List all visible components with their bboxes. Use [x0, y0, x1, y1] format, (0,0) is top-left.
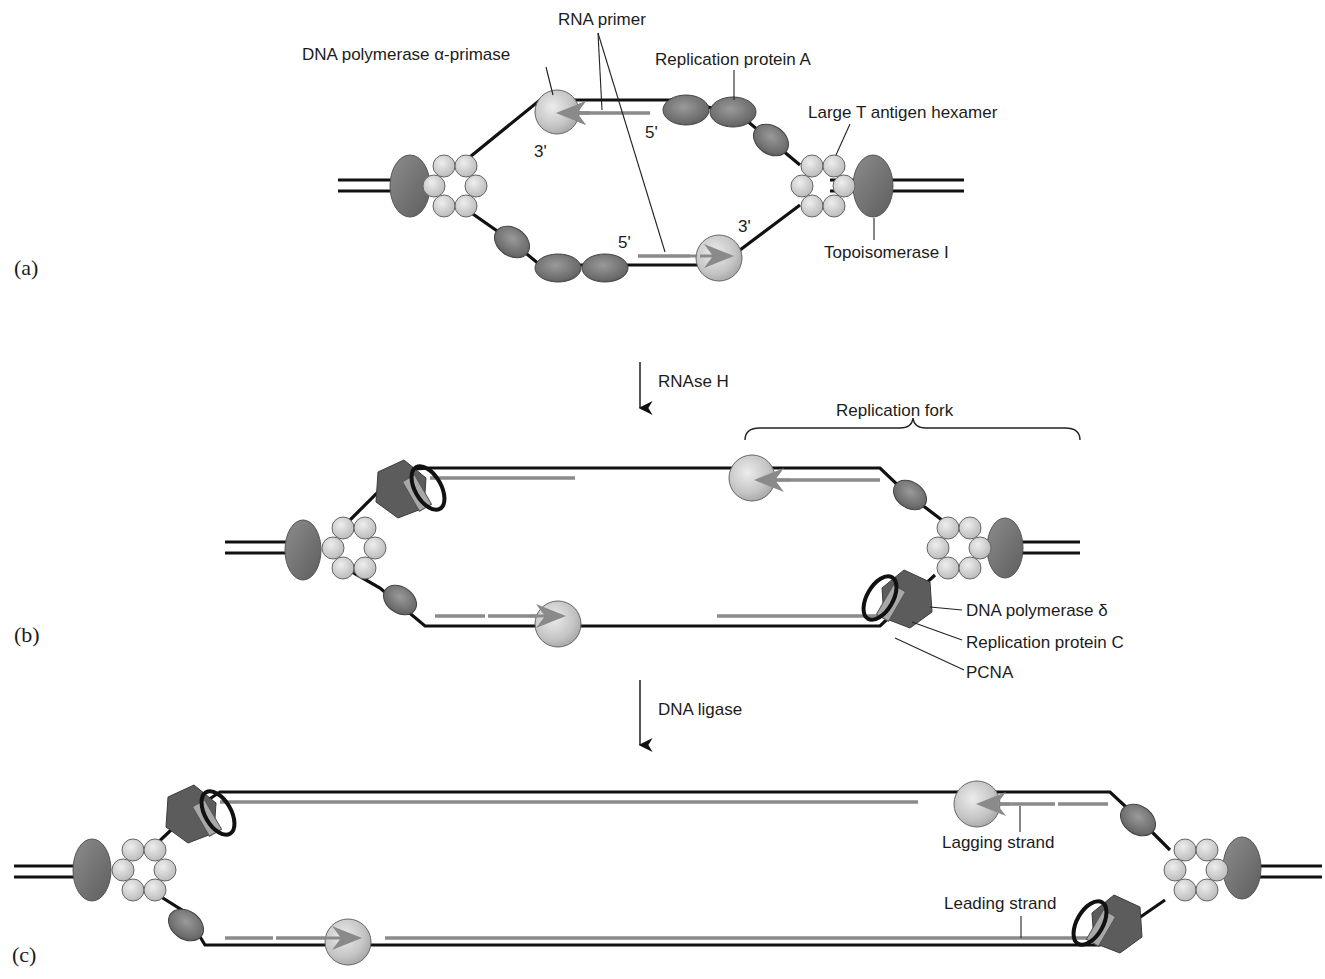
topoisomerase-b-left [285, 520, 321, 580]
rpa-top-2 [710, 97, 756, 127]
panel-label-b: (b) [14, 622, 40, 647]
pol-delta-complex-c-left [166, 785, 241, 843]
label-5prime-bottom: 5' [618, 233, 631, 252]
step-label-rnase-h: RNAse H [658, 372, 729, 391]
rpa-bottom-1 [488, 220, 535, 265]
label-t-antigen: Large T antigen hexamer [808, 103, 998, 122]
label-leading-strand: Leading strand [944, 894, 1056, 913]
label-rna-primer: RNA primer [558, 10, 646, 29]
panel-label-c: (c) [12, 942, 36, 967]
pol-alpha-c-bottom [325, 919, 371, 965]
t-antigen-hexamer-left [423, 155, 487, 217]
label-5prime-top: 5' [645, 123, 658, 142]
pol-alpha-primase-bottom [696, 235, 742, 281]
pol-delta-complex-b-right [857, 570, 932, 628]
panel-a: (a) RNA primer [14, 10, 998, 282]
step-label-dna-ligase: DNA ligase [658, 700, 742, 719]
rpa-bottom-2 [535, 254, 581, 282]
label-3prime-top: 3' [534, 142, 547, 161]
panel-c: (c) Lagging stra [12, 781, 1322, 967]
label-rfc: Replication protein C [966, 633, 1124, 652]
dna-replication-diagram: (a) RNA primer [0, 0, 1325, 979]
t-antigen-c-left [112, 839, 176, 901]
label-pcna: PCNA [966, 663, 1014, 682]
pol-delta-complex-c-right [1067, 895, 1142, 953]
t-antigen-hexamer-right [791, 155, 855, 217]
rpa-b-bottom [378, 579, 422, 621]
pol-alpha-b-bottom [535, 601, 581, 647]
label-topo: Topoisomerase I [824, 243, 949, 262]
replication-fork-brace [745, 418, 1080, 440]
rpa-top-1 [663, 95, 709, 125]
topoisomerase-right [853, 155, 893, 217]
step-rnase-h: RNAse H [640, 362, 729, 408]
t-antigen-c-right [1164, 839, 1228, 901]
leader-pol-delta [930, 607, 962, 610]
rpa-bottom-3 [582, 254, 628, 282]
label-3prime-bottom: 3' [738, 217, 751, 236]
label-lagging-strand: Lagging strand [942, 833, 1054, 852]
panel-label-a: (a) [14, 255, 38, 280]
topoisomerase-c-right [1223, 837, 1261, 899]
label-pol-delta: DNA polymerase δ [966, 601, 1108, 620]
topoisomerase-c-left [73, 839, 111, 901]
pol-alpha-b-top [729, 455, 775, 501]
leader-rfc [912, 622, 962, 640]
label-rpa: Replication protein A [655, 50, 812, 69]
t-antigen-b-right [927, 517, 991, 579]
leader-pcna [895, 638, 964, 670]
label-replication-fork: Replication fork [836, 401, 954, 420]
label-pol-alpha: DNA polymerase α-primase [302, 45, 510, 64]
leader-t-antigen [836, 124, 850, 155]
t-antigen-b-left [322, 517, 386, 579]
panel-b: (b) Replication fork [14, 401, 1124, 682]
step-dna-ligase: DNA ligase [640, 680, 742, 745]
topoisomerase-b-right [987, 518, 1023, 578]
